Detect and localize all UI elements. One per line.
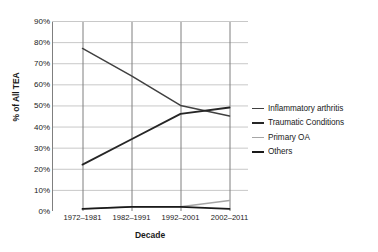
legend-item[interactable]: Traumatic Conditions <box>252 116 378 131</box>
x-axis-tick: 2002–2011 <box>211 213 248 222</box>
y-axis-tick: 80% <box>22 38 50 47</box>
legend-color-swatch <box>252 122 264 124</box>
y-axis-tick: 30% <box>22 143 50 152</box>
y-axis-tick: 0% <box>22 207 50 216</box>
x-axis-title: Decade <box>52 230 248 240</box>
legend-item-label: Traumatic Conditions <box>268 118 344 127</box>
y-axis-tick: 10% <box>22 185 50 194</box>
legend-item-label: Primary OA <box>268 133 310 142</box>
y-axis-tick: 60% <box>22 80 50 89</box>
y-axis-tick: 70% <box>22 59 50 68</box>
legend-item[interactable]: Others <box>252 145 378 160</box>
x-axis-tick: 1982–1991 <box>112 213 150 222</box>
legend-color-swatch <box>252 137 264 138</box>
legend-item-label: Others <box>268 147 292 156</box>
chart-legend: Inflammatory arthritisTraumatic Conditio… <box>252 101 378 159</box>
legend-item[interactable]: Primary OA <box>252 130 378 145</box>
x-axis-tick: 1992–2001 <box>161 213 199 222</box>
y-axis-tick-labels: 0%10%20%30%40%50%60%70%80%90% <box>20 0 50 252</box>
chart-figure: % of All TEA 0%10%20%30%40%50%60%70%80%9… <box>0 0 378 252</box>
legend-item-label: Inflammatory arthritis <box>268 104 343 113</box>
legend-color-swatch <box>252 151 264 153</box>
plot-area <box>52 21 248 211</box>
legend-item[interactable]: Inflammatory arthritis <box>252 101 378 116</box>
x-axis-tick-labels: 1972–19811982–19911992–20012002–2011 <box>52 213 248 229</box>
x-axis-tick: 1972–1981 <box>63 213 101 222</box>
y-axis-tick: 90% <box>22 17 50 26</box>
legend-color-swatch <box>252 108 264 109</box>
line-chart-svg <box>52 21 248 211</box>
series-line <box>83 207 230 209</box>
y-axis-tick: 40% <box>22 122 50 131</box>
y-axis-tick: 20% <box>22 164 50 173</box>
y-axis-tick: 50% <box>22 101 50 110</box>
series-line <box>83 108 230 165</box>
